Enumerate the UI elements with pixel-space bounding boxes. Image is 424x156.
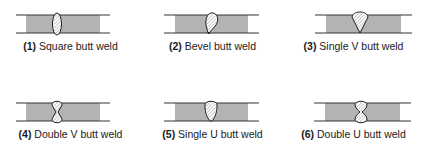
weld-figure-double-v: (4) Double V butt weld xyxy=(0,78,141,156)
single-v-butt-weld-drawing xyxy=(283,0,424,78)
weld-figure-double-u: (6) Double U butt weld xyxy=(283,78,424,156)
double-u-butt-weld-drawing xyxy=(283,78,424,156)
bevel-butt-weld-drawing xyxy=(142,0,283,78)
plate xyxy=(26,103,100,121)
plate xyxy=(26,15,100,33)
weld-figure-square: (1) Square butt weld xyxy=(0,0,141,78)
weld-figure-single-u: (5) Single U butt weld xyxy=(142,78,283,156)
weld-label: (1) Square butt weld xyxy=(0,40,141,52)
weld-label: (6) Double U butt weld xyxy=(283,128,424,140)
single-u-butt-weld-drawing xyxy=(142,78,283,156)
weld-figure-single-v: (3) Single V butt weld xyxy=(283,0,424,78)
square-butt-weld-drawing xyxy=(0,0,141,78)
weld-figure-bevel: (2) Bevel butt weld xyxy=(142,0,283,78)
weld-label: (4) Double V butt weld xyxy=(0,128,141,140)
weld-label: (5) Single U butt weld xyxy=(142,128,283,140)
weld-label: (2) Bevel butt weld xyxy=(142,40,283,52)
double-v-butt-weld-drawing xyxy=(0,78,141,156)
weld-label: (3) Single V butt weld xyxy=(283,40,424,52)
